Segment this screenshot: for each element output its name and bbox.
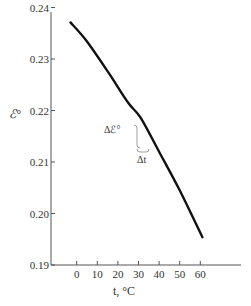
axes (51, 12, 241, 265)
chart: 0.190.200.210.220.230.24 0102030405060 Δ… (0, 0, 251, 306)
delta-t-label: Δt (137, 154, 146, 165)
x-tick-label: 30 (133, 268, 145, 280)
x-axis-title: t, °C (113, 284, 135, 298)
x-tick-label: 0 (74, 268, 80, 280)
x-tick-label: 60 (195, 268, 207, 280)
data-curve (71, 22, 203, 237)
delta-e-bracket (134, 125, 140, 148)
y-tick-label: 0.23 (30, 53, 50, 65)
y-tick-label: 0.20 (30, 208, 50, 220)
delta-e-label: Δℰ° (104, 124, 120, 135)
y-axis-title: ℰ° (9, 107, 21, 121)
y-tick-label: 0.22 (30, 105, 49, 117)
x-tick-label: 20 (112, 268, 124, 280)
y-tick-label: 0.19 (30, 259, 50, 271)
x-tick-label: 50 (174, 268, 186, 280)
y-tick-label: 0.21 (30, 156, 49, 168)
x-axis-ticks: 0102030405060 (74, 261, 206, 280)
delta-t-bracket (137, 149, 149, 152)
x-tick-label: 40 (154, 268, 166, 280)
delta-annotation: Δℰ° Δt (104, 124, 149, 165)
x-tick-label: 10 (92, 268, 104, 280)
y-tick-label: 0.24 (30, 2, 50, 14)
